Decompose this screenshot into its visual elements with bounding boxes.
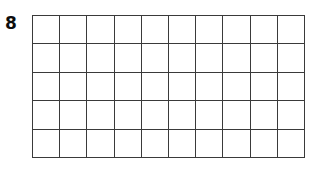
grid-cell[interactable] bbox=[278, 73, 305, 101]
grid-cell[interactable] bbox=[115, 130, 142, 158]
grid-cell[interactable] bbox=[115, 101, 142, 129]
grid-cell[interactable] bbox=[142, 44, 169, 72]
grid-cell[interactable] bbox=[33, 130, 60, 158]
grid-cell[interactable] bbox=[278, 130, 305, 158]
grid-cell[interactable] bbox=[60, 44, 87, 72]
grid-cell[interactable] bbox=[169, 44, 196, 72]
grid-cell[interactable] bbox=[196, 130, 223, 158]
grid-cell[interactable] bbox=[115, 16, 142, 44]
grid-cell[interactable] bbox=[142, 73, 169, 101]
grid-cell[interactable] bbox=[33, 101, 60, 129]
grid-cell[interactable] bbox=[196, 44, 223, 72]
grid-cell[interactable] bbox=[115, 44, 142, 72]
grid-cell[interactable] bbox=[223, 44, 250, 72]
grid-cell[interactable] bbox=[169, 101, 196, 129]
grid-cell[interactable] bbox=[33, 16, 60, 44]
grid-cell[interactable] bbox=[196, 73, 223, 101]
grid-cell[interactable] bbox=[169, 16, 196, 44]
grid-cell[interactable] bbox=[223, 73, 250, 101]
grid-cell[interactable] bbox=[87, 73, 114, 101]
grid-cell[interactable] bbox=[60, 130, 87, 158]
grid-cell[interactable] bbox=[60, 101, 87, 129]
grid-cell[interactable] bbox=[142, 16, 169, 44]
grid-cell[interactable] bbox=[115, 73, 142, 101]
grid-cell[interactable] bbox=[87, 130, 114, 158]
grid-cell[interactable] bbox=[87, 101, 114, 129]
grid-cell[interactable] bbox=[169, 73, 196, 101]
grid-cell[interactable] bbox=[87, 44, 114, 72]
grid-cell[interactable] bbox=[278, 44, 305, 72]
grid-cell[interactable] bbox=[60, 73, 87, 101]
grid-cell[interactable] bbox=[251, 44, 278, 72]
worksheet-page: 8 bbox=[0, 0, 319, 170]
grid-cell[interactable] bbox=[196, 16, 223, 44]
item-number-label: 8 bbox=[5, 12, 27, 34]
grid-cell[interactable] bbox=[251, 101, 278, 129]
grid-cell[interactable] bbox=[33, 44, 60, 72]
grid-cell[interactable] bbox=[278, 101, 305, 129]
grid-cell[interactable] bbox=[251, 130, 278, 158]
grid-cell[interactable] bbox=[251, 73, 278, 101]
grid-cell[interactable] bbox=[223, 101, 250, 129]
grid-cell[interactable] bbox=[278, 16, 305, 44]
grid-cell[interactable] bbox=[169, 130, 196, 158]
grid-cell[interactable] bbox=[196, 101, 223, 129]
grid-cell[interactable] bbox=[223, 130, 250, 158]
answer-grid[interactable] bbox=[32, 15, 305, 158]
grid-cell[interactable] bbox=[251, 16, 278, 44]
grid-cell[interactable] bbox=[87, 16, 114, 44]
grid-cell[interactable] bbox=[33, 73, 60, 101]
grid-cell[interactable] bbox=[142, 101, 169, 129]
grid-cell[interactable] bbox=[223, 16, 250, 44]
grid-cell[interactable] bbox=[142, 130, 169, 158]
grid-cell[interactable] bbox=[60, 16, 87, 44]
